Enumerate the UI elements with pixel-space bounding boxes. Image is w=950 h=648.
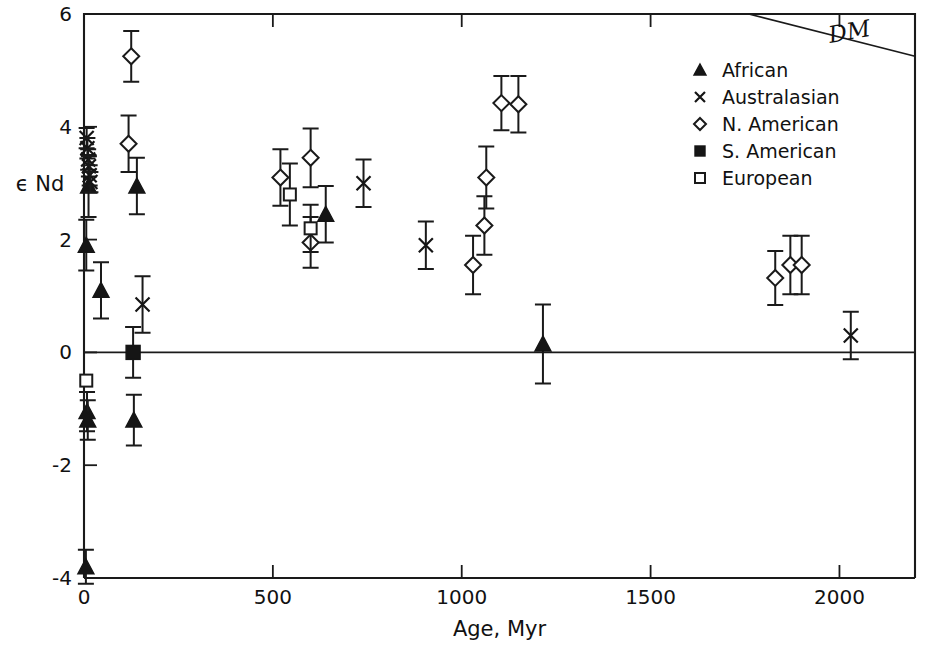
legend-item-european: European [695,167,813,189]
data-point [794,257,810,273]
marker-filled-triangle [129,178,145,193]
marker-filled-triangle [78,559,94,574]
data-point [126,412,142,427]
data-point [318,206,334,221]
y-tick-label: -4 [52,566,72,590]
marker-open-diamond [510,96,526,112]
marker-filled-triangle [535,336,551,351]
series-african [78,155,551,584]
marker-open-diamond [794,257,810,273]
chart-figure: 0500100015002000-4-20246Age, Myrϵ NdDMAf… [0,0,950,648]
legend-label: African [722,59,788,81]
legend-marker-open-diamond [694,118,706,130]
marker-open-diamond [767,270,783,286]
legend-item-n-american: N. American [694,113,839,135]
legend-marker-cross [695,92,705,102]
marker-filled-square [126,345,140,359]
legend-label: Australasian [722,86,840,108]
data-point [305,222,317,234]
data-point [129,178,145,193]
marker-open-diamond [303,150,319,166]
data-point [272,170,288,186]
marker-open-diamond [123,48,139,64]
epsilon-nd-vs-age-scatter-plot: 0500100015002000-4-20246Age, Myrϵ NdDMAf… [0,0,950,648]
x-tick-label: 1500 [625,585,676,609]
legend-item-s-american: S. American [695,140,837,162]
data-point [465,257,481,273]
legend-label: S. American [722,140,837,162]
legend-item-australasian: Australasian [695,86,840,108]
y-tick-label: 4 [59,115,72,139]
x-axis-title: Age, Myr [453,617,547,641]
marker-filled-triangle [126,412,142,427]
series-n-american [121,31,810,305]
data-point [478,170,494,186]
marker-open-diamond [478,170,494,186]
marker-filled-triangle [318,206,334,221]
x-tick-label: 2000 [814,585,865,609]
legend-item-african: African [694,59,788,81]
data-point [493,95,509,111]
data-point [80,375,92,387]
data-point [303,150,319,166]
marker-open-diamond [465,257,481,273]
series-s-american [125,327,141,378]
data-point [126,345,140,359]
data-point [535,336,551,351]
y-tick-label: 0 [59,340,72,364]
marker-open-diamond [493,95,509,111]
data-point [510,96,526,112]
legend-marker-open-square [695,173,705,183]
legend-label: European [722,167,813,189]
marker-open-square [284,188,296,200]
y-tick-label: -2 [52,453,72,477]
legend-marker-filled-triangle [694,64,706,75]
marker-open-diamond [476,218,492,234]
marker-open-diamond [272,170,288,186]
x-tick-label: 0 [78,585,91,609]
marker-open-square [305,222,317,234]
legend-marker-filled-square [695,146,705,156]
data-point [284,188,296,200]
y-tick-label: 2 [59,228,72,252]
y-tick-label: 6 [59,2,72,26]
y-axis-title: ϵ Nd [16,172,65,196]
series-australasian [79,128,859,359]
marker-open-square [80,375,92,387]
data-point [476,218,492,234]
data-point [93,282,109,297]
data-point [78,559,94,574]
legend: AfricanAustralasianN. AmericanS. America… [694,59,840,189]
legend-label: N. American [722,113,839,135]
x-tick-label: 500 [254,585,292,609]
x-tick-label: 1000 [436,585,487,609]
data-point [123,48,139,64]
marker-open-diamond [121,136,137,152]
data-point [767,270,783,286]
marker-filled-triangle [93,282,109,297]
data-point [121,136,137,152]
